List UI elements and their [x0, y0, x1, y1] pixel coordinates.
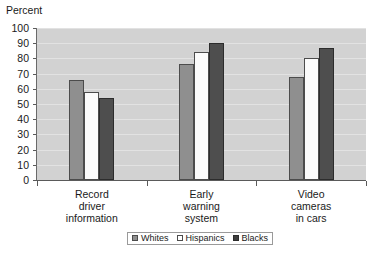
bar [194, 52, 209, 180]
y-axis-tick-label: 10 [17, 160, 29, 171]
y-axis-tick-label: 20 [17, 144, 29, 155]
y-axis-line [36, 28, 37, 181]
y-axis-tick-label: 40 [17, 114, 29, 125]
category-label-line: Record [37, 188, 147, 200]
y-axis-tick-labels: 1009080706050403020100 [0, 28, 33, 180]
x-axis-category-label: Videocamerasin cars [256, 188, 366, 225]
x-axis-ticks [0, 181, 372, 186]
x-axis-tick [37, 181, 38, 186]
x-axis-tick [256, 181, 257, 186]
x-axis-tick [366, 181, 367, 186]
category-label-line: system [147, 212, 257, 224]
bar [69, 80, 84, 180]
legend-item: Whites [132, 234, 169, 243]
bars-layer [37, 28, 366, 180]
bar [84, 92, 99, 180]
y-axis-tick-label: 30 [17, 129, 29, 140]
y-axis-tick-label: 100 [11, 23, 29, 34]
legend-swatch-icon [177, 235, 183, 241]
y-axis-tick-label: 70 [17, 68, 29, 79]
bar [99, 98, 114, 180]
legend-swatch-icon [132, 235, 138, 241]
category-label-line: information [37, 212, 147, 224]
y-axis-tick-label: 80 [17, 53, 29, 64]
category-label-line: warning [147, 200, 257, 212]
legend-item: Blacks [233, 234, 269, 243]
x-axis-tick [147, 181, 148, 186]
legend: WhitesHispanicsBlacks [127, 232, 273, 245]
bar [289, 77, 304, 180]
x-axis-category-labels: RecorddriverinformationEarlywarningsyste… [37, 188, 366, 228]
category-label-line: cameras [256, 200, 366, 212]
bar-chart: Percent 1009080706050403020100 Recorddri… [0, 0, 372, 261]
legend-label: Blacks [242, 234, 269, 243]
category-label-line: driver [37, 200, 147, 212]
y-axis-title: Percent [6, 4, 42, 16]
category-label-line: Video [256, 188, 366, 200]
bar [319, 48, 334, 180]
legend-item: Hispanics [177, 234, 225, 243]
legend-label: Hispanics [186, 234, 225, 243]
legend-label: Whites [141, 234, 169, 243]
y-axis-tick-label: 90 [17, 38, 29, 49]
bar [304, 58, 319, 180]
category-label-line: Early [147, 188, 257, 200]
legend-swatch-icon [233, 235, 239, 241]
y-axis-tick-label: 60 [17, 84, 29, 95]
x-axis-category-label: Recorddriverinformation [37, 188, 147, 225]
category-label-line: in cars [256, 212, 366, 224]
x-axis-category-label: Earlywarningsystem [147, 188, 257, 225]
plot-area [37, 28, 366, 180]
bar [179, 64, 194, 180]
y-axis-tick-label: 50 [17, 99, 29, 110]
bar [209, 43, 224, 180]
